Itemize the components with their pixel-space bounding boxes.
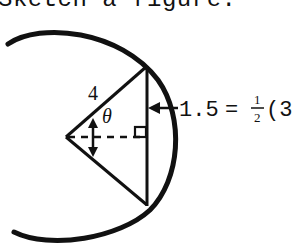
- equals-sign: =: [225, 98, 238, 123]
- right-angle-marker: [135, 127, 146, 137]
- geometry-figure: 4 θ 1.5 = 1 2 (3: [0, 0, 293, 245]
- equation-tail: (3: [266, 98, 292, 123]
- fraction-numerator: 1: [254, 92, 261, 107]
- angle-label: θ: [102, 105, 112, 127]
- fraction-denominator: 2: [254, 110, 261, 125]
- lower-radius: [66, 137, 147, 205]
- distance-label: 1.5: [179, 98, 219, 123]
- radius-label: 4: [88, 82, 98, 104]
